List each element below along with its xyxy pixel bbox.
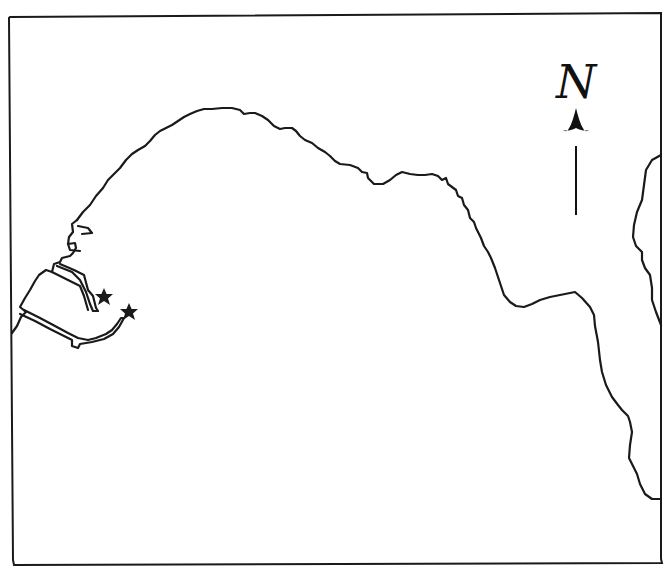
map-canvas: N xyxy=(0,0,670,567)
north-arrow-label: N xyxy=(555,55,598,109)
north-arrow: N xyxy=(555,55,598,215)
south-breakwater xyxy=(20,310,124,348)
star-marker-1[interactable] xyxy=(95,288,113,305)
east-island xyxy=(633,155,661,325)
west-land-outline xyxy=(12,270,52,333)
north-arrow-head-icon xyxy=(563,108,589,131)
main-coastline xyxy=(77,108,660,499)
north-jetty xyxy=(57,226,98,311)
